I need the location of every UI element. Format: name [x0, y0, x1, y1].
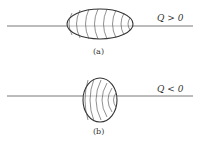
condition-label-b: Q < 0 [157, 84, 183, 94]
condition-label-a: Q > 0 [157, 13, 183, 23]
caption-b: (b) [93, 127, 104, 136]
prolate-ellipsoid-outline [67, 9, 133, 39]
caption-a: (a) [93, 47, 104, 56]
oblate-ellipsoid-outline [83, 78, 117, 122]
